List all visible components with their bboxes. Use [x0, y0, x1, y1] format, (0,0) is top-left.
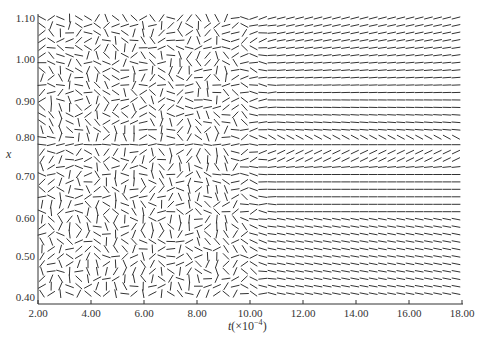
x-tick-label: 14.00	[344, 307, 369, 319]
direction-field-chart: 2.004.006.008.0010.0012.0014.0016.0018.0…	[0, 0, 483, 339]
x-tick-label: 4.00	[81, 307, 101, 319]
slope-field	[38, 14, 460, 298]
y-ticks: 0.400.500.600.700.800.901.001.10	[16, 12, 36, 303]
y-tick-label: 0.50	[16, 250, 36, 262]
x-axis-label: t(×10−4)	[228, 318, 267, 333]
y-tick-label: 0.40	[16, 291, 36, 303]
x-tick-label: 2.00	[28, 307, 48, 319]
y-tick-label: 0.70	[16, 170, 36, 182]
x-tick-label: 8.00	[187, 307, 207, 319]
y-tick-label: 0.60	[16, 212, 36, 224]
x-tick-label: 6.00	[134, 307, 154, 319]
y-tick-label: 0.90	[16, 95, 36, 107]
x-tick-label: 18.00	[450, 307, 475, 319]
y-tick-label: 1.00	[16, 53, 36, 65]
x-ticks: 2.004.006.008.0010.0012.0014.0016.0018.0…	[28, 300, 475, 319]
y-tick-label: 0.80	[16, 131, 36, 143]
y-axis-label: x	[5, 147, 12, 161]
x-tick-label: 16.00	[397, 307, 422, 319]
x-tick-label: 12.00	[291, 307, 316, 319]
y-tick-label: 1.10	[16, 12, 36, 24]
axes	[38, 14, 463, 304]
